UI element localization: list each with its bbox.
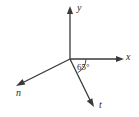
t-axis-label: t (99, 100, 102, 110)
t-axis-arrowhead-icon (87, 98, 94, 107)
y-axis-group (67, 6, 73, 59)
x-axis-label: x (126, 52, 130, 62)
n-axis-group (16, 59, 70, 86)
x-axis-arrowhead-icon (116, 56, 124, 62)
n-axis-line (23, 59, 70, 83)
n-axis-label: n (16, 88, 21, 98)
axes-diagram: y x n t 65° (0, 0, 139, 117)
y-axis-arrowhead-icon (67, 6, 73, 14)
n-axis-arrowhead-icon (16, 79, 25, 86)
y-axis-label: y (77, 3, 81, 13)
axes-vector-graphic (0, 0, 139, 117)
angle-measure-label: 65° (77, 63, 90, 72)
